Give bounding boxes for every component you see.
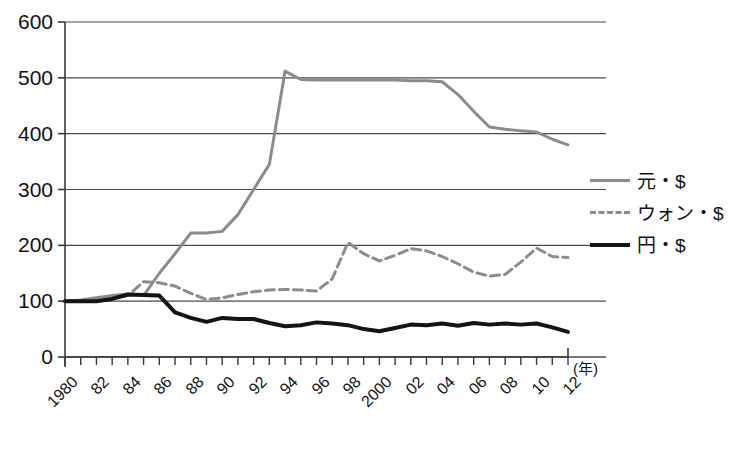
chart-legend: 元・$ウォン・$円・$ <box>590 165 740 261</box>
legend-item-label: ウォン・$ <box>637 204 724 223</box>
legend-item[interactable]: 円・$ <box>590 229 740 261</box>
y-axis-tick-label: 300 <box>0 179 53 200</box>
legend-item-label: 円・$ <box>637 236 686 255</box>
y-axis-tick-label: 500 <box>0 67 53 88</box>
y-axis-tick-label: 0 <box>0 346 53 367</box>
y-axis-tick-label: 100 <box>0 290 53 311</box>
legend-item[interactable]: 元・$ <box>590 165 740 197</box>
y-axis-tick-label: 200 <box>0 234 53 255</box>
series-line-2 <box>65 243 568 302</box>
exchange-rate-line-chart: 6005004003002001000 19808284868890929496… <box>0 0 745 450</box>
y-axis-tick-label: 600 <box>0 11 53 32</box>
legend-item[interactable]: ウォン・$ <box>590 197 740 229</box>
y-axis-tick-label: 400 <box>0 123 53 144</box>
x-axis-unit-label: (年) <box>573 357 598 378</box>
legend-item-label: 元・$ <box>637 172 686 191</box>
series-line-1 <box>65 71 568 301</box>
series-line-3 <box>65 294 568 331</box>
